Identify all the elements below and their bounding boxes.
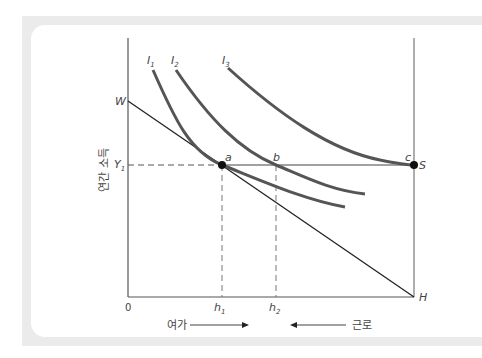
indifference-curve-i3 (228, 68, 414, 165)
origin-label: 0 (125, 302, 131, 313)
work-arrowhead-icon (290, 322, 297, 328)
label-y1: Y1 (114, 158, 125, 173)
label-h2: h2 (269, 301, 281, 316)
budget-line (128, 101, 414, 297)
point-c-marker (410, 161, 418, 169)
y-axis-title: 연간 소득 (98, 148, 111, 192)
label-h1: h1 (214, 301, 225, 316)
curve-label-i3: I3 (222, 54, 230, 69)
leisure-arrowhead-icon (242, 322, 249, 328)
work-label: 근로 (352, 319, 372, 332)
indifference-curve-i2 (176, 70, 365, 194)
label-w: W (115, 95, 127, 108)
label-h: H (419, 291, 427, 304)
curve-label-i2: I2 (171, 54, 179, 69)
label-point-a: a (225, 151, 232, 164)
label-point-c: c (405, 151, 411, 164)
label-point-b: b (273, 151, 280, 164)
curve-label-i1: I1 (147, 54, 155, 69)
leisure-label: 여가 (167, 319, 187, 332)
label-s: S (419, 159, 426, 172)
